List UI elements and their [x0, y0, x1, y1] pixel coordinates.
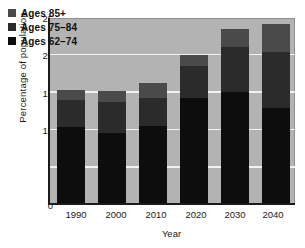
x-tick-label-1990: 1990 [65, 209, 86, 220]
gridline-20 [50, 54, 295, 56]
panel-top-edge [50, 18, 295, 19]
x-tick-label-2010: 2010 [145, 209, 166, 220]
legend-swatch-ages-75-84 [8, 23, 16, 31]
bar-segment-2010-ages-62-74 [139, 126, 167, 203]
legend-label-ages-62-74: Ages 62–74 [21, 36, 77, 47]
legend-label-ages-85-plus: Ages 85+ [21, 8, 66, 19]
bar-segment-2040-ages-75-84 [262, 52, 290, 108]
plot-area [48, 18, 295, 205]
bar-segment-2040-ages-62-74 [262, 108, 290, 203]
bar-segment-2030-ages-75-84 [221, 47, 249, 92]
chart-figure: Percentage of population 25 20 15 10 5 0… [0, 0, 305, 248]
bar-segment-2030-ages-85 [221, 29, 249, 47]
x-tick-label-2030: 2030 [224, 209, 245, 220]
bar-1990 [57, 90, 85, 203]
x-tick-label-2000: 2000 [105, 209, 126, 220]
x-axis-title: Year [48, 228, 295, 239]
legend-swatch-ages-62-74 [8, 37, 16, 45]
bar-segment-2030-ages-62-74 [221, 92, 249, 203]
bar-segment-2020-ages-75-84 [180, 66, 208, 97]
bar-2020 [180, 55, 208, 203]
legend-item-ages-62-74: Ages 62–74 [8, 34, 77, 48]
x-tick-label-2020: 2020 [185, 209, 206, 220]
chart-legend: Ages 85+ Ages 75–84 Ages 62–74 [6, 5, 81, 50]
bar-2010 [139, 83, 167, 203]
bar-2000 [98, 91, 126, 203]
bar-2030 [221, 29, 249, 203]
legend-label-ages-75-84: Ages 75–84 [21, 22, 77, 33]
bar-segment-2010-ages-75-84 [139, 98, 167, 126]
legend-item-ages-85-plus: Ages 85+ [8, 6, 77, 20]
bar-segment-2020-ages-62-74 [180, 98, 208, 203]
legend-swatch-ages-85-plus [8, 9, 16, 17]
bar-segment-2020-ages-85 [180, 55, 208, 66]
legend-item-ages-75-84: Ages 75–84 [8, 20, 77, 34]
bar-segment-2000-ages-75-84 [98, 102, 126, 133]
x-tick-label-2040: 2040 [262, 209, 283, 220]
bar-segment-2000-ages-62-74 [98, 133, 126, 203]
bar-segment-1990-ages-75-84 [57, 100, 85, 128]
gridline-15 [50, 91, 295, 93]
bar-segment-1990-ages-62-74 [57, 127, 85, 203]
bar-segment-2000-ages-85 [98, 91, 126, 102]
panel-right-edge [294, 18, 295, 203]
gridline-5 [50, 166, 295, 168]
bar-segment-1990-ages-85 [57, 90, 85, 100]
bar-segment-2040-ages-85 [262, 24, 290, 52]
gridline-10 [50, 129, 295, 131]
bar-2040 [262, 24, 290, 203]
bar-segment-2010-ages-85 [139, 83, 167, 98]
